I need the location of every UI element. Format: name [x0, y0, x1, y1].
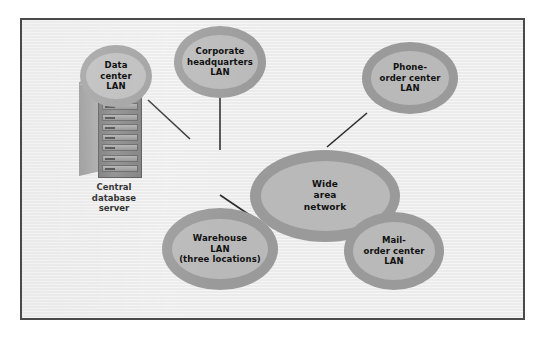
drive-bay [102, 124, 138, 131]
node-warehouse-lan: Warehouse LAN (three locations) [162, 208, 278, 290]
node-mail-order-center-lan: Mail- order center LAN [344, 212, 444, 290]
node-inner-fill: Mail- order center LAN [353, 222, 435, 280]
node-label-phone-order-center-lan: Phone- order center LAN [377, 62, 442, 94]
node-label-corporate-headquarters-lan: Corporate headquarters LAN [185, 46, 255, 78]
drive-bay [102, 165, 138, 172]
edge-phone-to-wan [327, 113, 367, 147]
drive-bay [102, 114, 138, 121]
node-inner-fill: Corporate headquarters LAN [182, 35, 257, 88]
server-caption-label: Central database server [71, 182, 157, 214]
diagram-frame: Central database server Data center LAN … [20, 18, 525, 320]
drive-bay [102, 134, 138, 141]
node-label-warehouse-lan: Warehouse LAN (three locations) [177, 233, 263, 265]
node-label-wide-area-network: Wide area network [302, 179, 348, 214]
node-inner-fill: Warehouse LAN (three locations) [172, 219, 267, 280]
drive-bay [102, 144, 138, 151]
node-inner-fill: Phone- order center LAN [371, 51, 450, 104]
node-label-mail-order-center-lan: Mail- order center LAN [361, 235, 426, 267]
node-label-data-center-lan: Data center LAN [98, 60, 133, 92]
node-inner-fill: Data center LAN [86, 53, 145, 99]
drive-bay [102, 155, 138, 162]
node-corporate-headquarters-lan: Corporate headquarters LAN [174, 26, 266, 98]
node-data-center-lan: Data center LAN [80, 45, 152, 107]
network-diagram: Central database server Data center LAN … [0, 0, 547, 337]
node-phone-order-center-lan: Phone- order center LAN [362, 42, 458, 114]
